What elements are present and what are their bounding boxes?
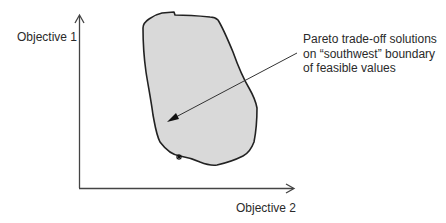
x-axis xyxy=(79,184,294,193)
pareto-diagram: Objective 1 Objective 2 Pareto trade-off… xyxy=(0,0,446,223)
annotation-line-2: on “southwest” boundary xyxy=(303,47,437,62)
star-marker-icon xyxy=(176,154,182,160)
x-axis-label: Objective 2 xyxy=(236,201,296,215)
annotation-line-3: of feasible values xyxy=(303,61,437,76)
annotation-line-1: Pareto trade-off solutions xyxy=(303,32,437,47)
pareto-annotation: Pareto trade-off solutions on “southwest… xyxy=(303,32,437,76)
y-axis-label: Objective 1 xyxy=(17,30,77,44)
feasible-region xyxy=(143,12,257,165)
